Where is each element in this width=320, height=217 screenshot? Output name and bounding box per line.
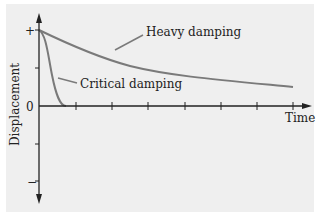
critical-damping-leader — [58, 78, 77, 83]
y-tick-plus: + — [25, 24, 35, 38]
x-axis-arrow-right-icon — [302, 103, 312, 109]
x-axis-label: Time — [285, 111, 315, 125]
damping-chart: Heavy damping Critical damping Time Disp… — [0, 0, 320, 217]
heavy-damping-leader — [115, 35, 143, 50]
y-axis-arrow-down-icon — [36, 194, 42, 204]
critical-damping-label: Critical damping — [80, 77, 182, 91]
y-axis-label: Displacement — [8, 63, 22, 146]
y-tick-minus: − — [27, 175, 37, 189]
y-axis-arrow-up-icon — [36, 13, 42, 23]
y-tick-zero: 0 — [26, 100, 34, 114]
heavy-damping-label: Heavy damping — [146, 25, 242, 39]
